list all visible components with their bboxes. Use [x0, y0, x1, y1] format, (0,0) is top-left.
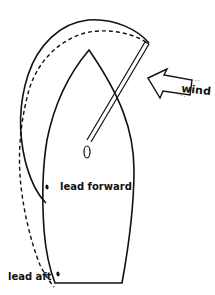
lead-forward-label: lead forward	[60, 181, 132, 192]
spinnaker-pole-line-a	[87, 42, 145, 140]
spinnaker-pole-line-b	[91, 44, 149, 142]
hull-outline	[43, 50, 134, 283]
lead-aft-label: lead aft	[8, 271, 52, 282]
sail-trim-diagram: wind lead forward lead aft	[0, 0, 215, 295]
wind-label: wind	[181, 82, 212, 98]
mast	[84, 146, 90, 158]
lead-forward-point	[45, 184, 49, 189]
lead-aft-point	[56, 271, 60, 276]
wind-arrow-trail-top	[192, 80, 200, 81]
sail-lead-forward	[21, 20, 149, 203]
